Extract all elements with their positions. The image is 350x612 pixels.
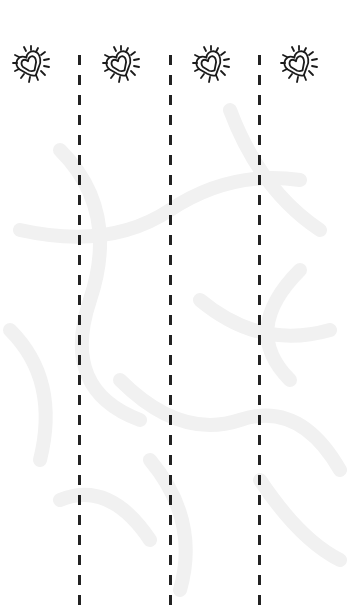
virus-heart-icon	[10, 43, 54, 87]
virus-heart-icon	[278, 43, 322, 87]
dashed-cut-line	[78, 55, 81, 612]
virus-heart-icon	[100, 43, 144, 87]
background-pattern	[0, 0, 350, 612]
dashed-cut-line	[169, 55, 172, 612]
dashed-cut-line	[258, 55, 261, 612]
virus-heart-icon	[190, 43, 234, 87]
